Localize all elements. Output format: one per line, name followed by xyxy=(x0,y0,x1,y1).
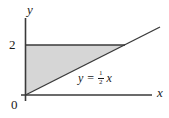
y-axis-label: y xyxy=(27,3,33,16)
equation-annotation: y = 1 2 x xyxy=(78,70,112,86)
x-axis-label: x xyxy=(157,86,163,99)
graph-figure: y x 2 0 y = 1 2 x xyxy=(0,0,169,118)
equation-lhs: y xyxy=(78,72,83,84)
equation-equals-sign: = xyxy=(87,72,94,84)
fraction-numerator: 1 xyxy=(98,70,104,77)
fraction-denominator: 2 xyxy=(98,79,104,86)
y-tick-label-2: 2 xyxy=(9,38,16,51)
plot-canvas xyxy=(0,0,169,118)
equation-variable: x xyxy=(107,72,112,84)
origin-label: 0 xyxy=(11,98,18,111)
fraction-one-half: 1 2 xyxy=(98,70,104,86)
